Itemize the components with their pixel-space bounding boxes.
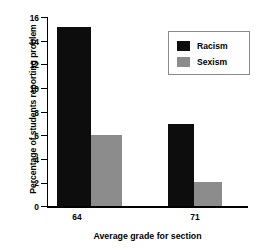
- bar-chart: Percentage of students reporting problem…: [0, 0, 264, 252]
- legend-label-racism: Racism: [197, 41, 228, 51]
- y-tick-label-6: 6: [18, 132, 39, 140]
- legend-swatch-sexism-icon: [177, 57, 190, 67]
- x-tick-label-64: 64: [57, 212, 97, 222]
- legend-item-racism: Racism: [177, 40, 228, 52]
- bar-sexism-64: [91, 135, 122, 207]
- bar-racism-71: [168, 124, 194, 207]
- y-tick-label-2: 2: [18, 179, 39, 187]
- legend-label-sexism: Sexism: [197, 57, 227, 67]
- x-axis-title: Average grade for section: [47, 231, 248, 241]
- legend-swatch-racism-icon: [177, 41, 190, 51]
- y-tick-label-12: 12: [18, 61, 39, 69]
- legend-item-sexism: Sexism: [177, 56, 227, 68]
- bar-sexism-71: [194, 182, 222, 207]
- x-axis-line: [47, 206, 248, 208]
- bar-racism-64: [57, 27, 91, 208]
- y-tick-label-10: 10: [18, 85, 39, 93]
- y-tick-label-8: 8: [18, 109, 39, 117]
- y-tick-label-14: 14: [18, 38, 39, 46]
- y-tick-label-4: 4: [18, 156, 39, 164]
- y-tick-label-16: 16: [18, 14, 39, 22]
- y-tick-label-0: 0: [18, 203, 39, 211]
- chart-legend: Racism Sexism: [168, 31, 250, 75]
- x-tick-label-71: 71: [175, 212, 215, 222]
